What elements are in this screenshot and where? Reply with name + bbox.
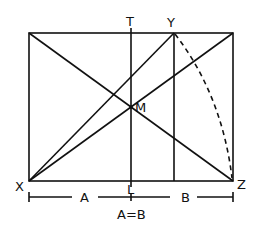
label-Z: Z — [237, 177, 246, 192]
label-M: M — [135, 100, 146, 115]
label-A: A — [80, 190, 89, 205]
label-Y: Y — [166, 15, 175, 30]
point-M — [129, 105, 133, 109]
label-T: T — [125, 14, 134, 29]
label-B: B — [181, 190, 190, 205]
diagram: T Y M X Z L A B A=B — [0, 0, 262, 245]
geometric-construction: T Y M X Z L A B A=B — [0, 0, 262, 245]
arc-dashed — [175, 34, 232, 178]
label-X: X — [15, 179, 24, 194]
label-L: L — [127, 182, 135, 197]
line-X-Y — [29, 33, 174, 181]
equation-label: A=B — [117, 207, 146, 222]
